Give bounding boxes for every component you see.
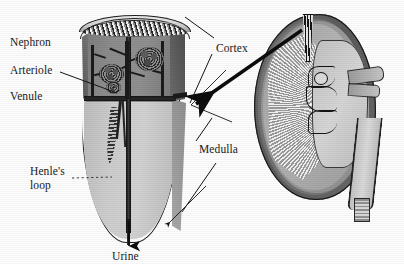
- renal-calyx-3: [308, 110, 337, 134]
- label-medulla: Medulla: [199, 143, 238, 156]
- wedge-left-sliver: [82, 33, 88, 101]
- wedge-cortex-side-face: [170, 30, 185, 102]
- label-urine: Urine: [112, 250, 139, 263]
- leader-line-fan-2: [191, 105, 232, 122]
- glomerulus-lower: [106, 81, 121, 94]
- renal-hilum: [314, 72, 328, 85]
- wedge-medulla-side-face: [172, 99, 186, 231]
- label-henles-loop-line2: loop: [30, 179, 51, 192]
- label-arteriole: Arteriole: [10, 64, 52, 77]
- collecting-duct-outlet: [127, 219, 130, 245]
- kidney-diagram-figure: Nephron Arteriole Venule Henle's loop Co…: [0, 0, 404, 264]
- label-nephron: Nephron: [10, 36, 51, 49]
- renal-vein: [348, 83, 381, 98]
- label-cortex: Cortex: [216, 42, 248, 55]
- glomerulus-right: [135, 47, 164, 71]
- label-venule: Venule: [10, 90, 43, 103]
- leader-line-fan-1: [191, 70, 226, 105]
- magnified-kidney-wedge: [73, 11, 195, 252]
- leader-line-medulla-upper: [196, 118, 212, 141]
- label-henles-loop-line1: Henle's: [30, 165, 65, 178]
- whole-kidney-illustration: [248, 10, 404, 236]
- ureter-lower-segment: [354, 198, 370, 222]
- vessel-right-trunk: [161, 41, 164, 97]
- renal-calyx-2: [306, 86, 337, 112]
